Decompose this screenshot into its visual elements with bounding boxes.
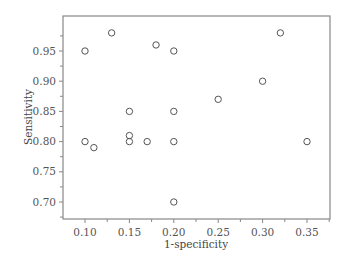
y-tick-label: 0.95 — [33, 45, 56, 57]
data-point-marker — [82, 48, 88, 54]
data-point-marker — [215, 96, 221, 102]
plot-border — [63, 16, 330, 219]
data-point-marker — [277, 30, 283, 36]
y-tick-label: 0.85 — [33, 105, 56, 117]
y-axis: 0.700.750.800.850.900.95 — [33, 36, 63, 217]
data-point-marker — [171, 48, 177, 54]
data-point-marker — [171, 199, 177, 205]
data-points — [82, 30, 310, 206]
scatter-plot: 0.100.150.200.250.300.35 0.700.750.800.8… — [0, 0, 347, 268]
x-tick-label: 0.25 — [207, 226, 230, 238]
data-point-marker — [259, 78, 265, 84]
y-tick-label: 0.70 — [33, 196, 56, 208]
y-tick-label: 0.90 — [33, 75, 56, 87]
data-point-marker — [126, 108, 132, 114]
data-point-marker — [171, 138, 177, 144]
plot-frame — [63, 16, 330, 219]
data-point-marker — [91, 144, 97, 150]
data-point-marker — [171, 108, 177, 114]
x-axis: 0.100.150.200.250.300.35 — [73, 219, 329, 238]
x-tick-label: 0.35 — [295, 226, 318, 238]
x-tick-label: 0.10 — [73, 226, 96, 238]
x-tick-label: 0.30 — [251, 226, 274, 238]
data-point-marker — [108, 30, 114, 36]
y-tick-label: 0.75 — [33, 165, 56, 177]
data-point-marker — [144, 138, 150, 144]
data-point-marker — [126, 132, 132, 138]
data-point-marker — [304, 138, 310, 144]
x-tick-label: 0.20 — [162, 226, 185, 238]
x-tick-label: 0.15 — [118, 226, 141, 238]
data-point-marker — [153, 42, 159, 48]
data-point-marker — [126, 138, 132, 144]
y-tick-label: 0.80 — [33, 135, 56, 147]
x-axis-title: 1-specificity — [164, 238, 228, 250]
data-point-marker — [82, 138, 88, 144]
y-axis-title: Sensitivity — [22, 89, 34, 145]
